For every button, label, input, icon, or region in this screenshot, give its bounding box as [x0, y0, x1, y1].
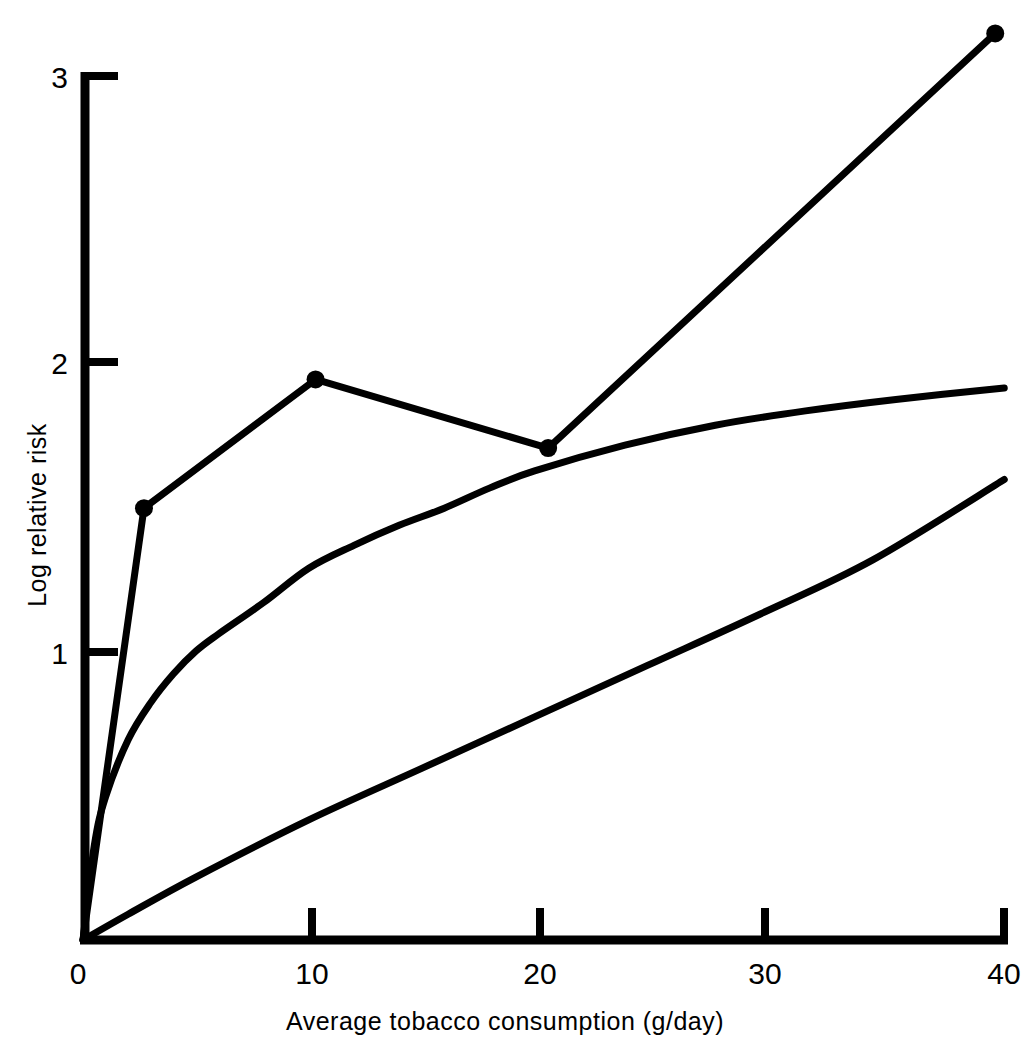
- data-point-marker: [539, 439, 557, 457]
- x-tick-label-10: 10: [295, 957, 328, 990]
- x-tick-label-40: 40: [987, 957, 1020, 990]
- y-tick-label-3: 3: [51, 61, 68, 94]
- chart-canvas: 3 2 1 0 10 20 30 40 Average tobacco cons…: [0, 0, 1031, 1055]
- x-tick-label-0: 0: [70, 957, 87, 990]
- y-axis-title: Log relative risk: [23, 423, 51, 607]
- data-point-marker: [135, 499, 153, 517]
- x-tick-label-30: 30: [748, 957, 781, 990]
- chart-figure: 3 2 1 0 10 20 30 40 Average tobacco cons…: [0, 0, 1031, 1055]
- y-tick-label-2: 2: [51, 347, 68, 380]
- y-tick-label-1: 1: [51, 637, 68, 670]
- x-tick-label-20: 20: [523, 957, 556, 990]
- data-point-marker: [986, 24, 1004, 42]
- data-point-marker: [307, 370, 325, 388]
- x-axis-title: Average tobacco consumption (g/day): [286, 1007, 724, 1035]
